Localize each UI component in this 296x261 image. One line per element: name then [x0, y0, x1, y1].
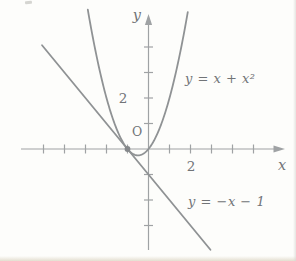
function-graph-figure: y x O 2 2 y = x + x² y = −x − 1: [0, 0, 296, 261]
y-axis-arrow: [145, 14, 152, 25]
x-axis-arrow: [274, 145, 286, 152]
scan-bottom-edge-shade: [0, 256, 296, 261]
y-tick-label-2: 2: [119, 90, 128, 106]
graph-canvas: y x O 2 2 y = x + x² y = −x − 1: [0, 0, 296, 261]
x-axis-label: x: [278, 157, 286, 173]
line-equation-label: y = −x − 1: [187, 194, 265, 209]
parabola-equation-label: y = x + x²: [184, 71, 256, 86]
scan-right-edge-shade: [293, 0, 296, 261]
tangency-point-dot: [125, 146, 131, 152]
x-tick-label-2: 2: [187, 158, 196, 174]
plot-layer: [21, 10, 285, 250]
y-axis-label: y: [132, 7, 142, 23]
origin-label: O: [132, 124, 142, 139]
